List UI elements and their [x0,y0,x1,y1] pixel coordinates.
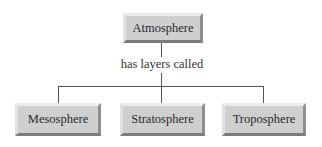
node-troposphere: Troposphere [222,103,306,136]
relation-label: has layers called [111,57,213,72]
node-atmosphere: Atmosphere [123,13,203,43]
node-label: Stratosphere [131,112,193,127]
node-mesosphere: Mesosphere [15,103,101,136]
connector-left [58,86,59,103]
node-stratosphere: Stratosphere [120,103,205,136]
node-label: Mesosphere [28,112,88,127]
connector-horizontal [58,86,264,87]
connector-root-top [161,43,162,57]
node-label: Atmosphere [132,21,193,36]
connector-right [263,86,264,103]
node-label: Troposphere [233,112,296,127]
connector-root-bottom [161,73,162,103]
